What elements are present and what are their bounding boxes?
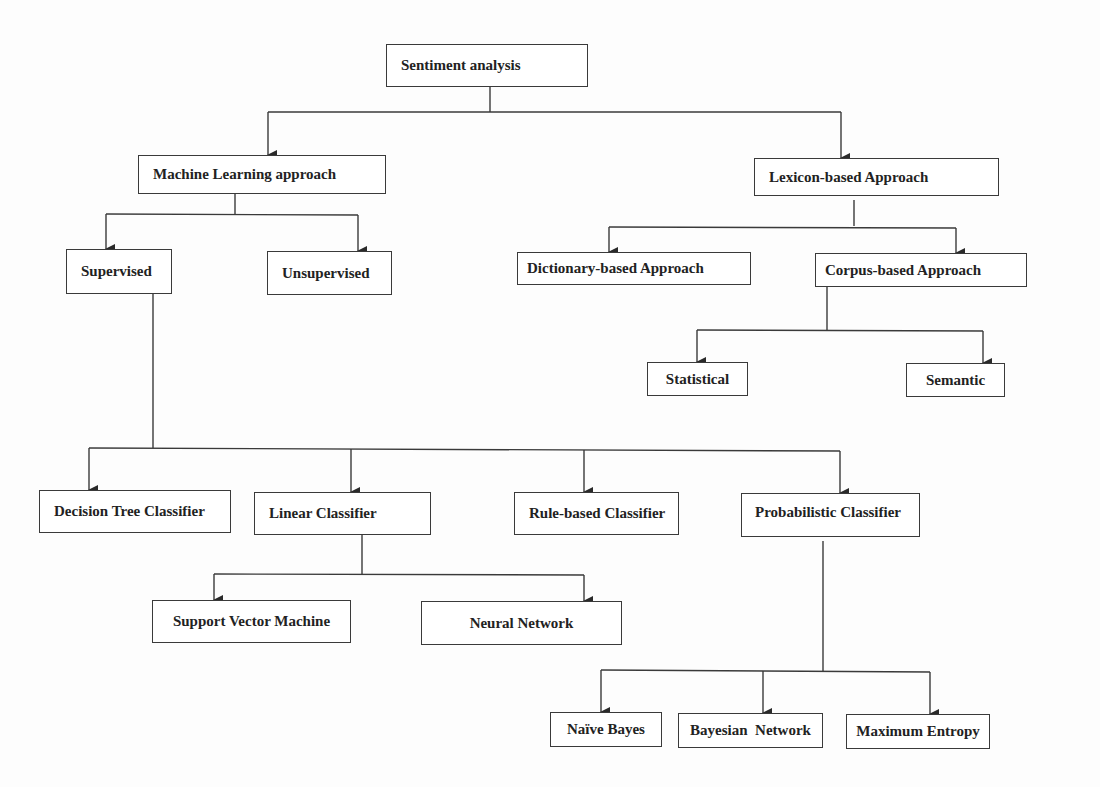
- node-machine-learning-approach: Machine Learning approach: [138, 155, 386, 194]
- node-maximum-entropy: Maximum Entropy: [846, 714, 990, 749]
- node-corpus-based-approach: Corpus-based Approach: [815, 253, 1027, 287]
- node-sentiment-analysis: Sentiment analysis: [386, 44, 588, 87]
- node-neural-network: Neural Network: [421, 601, 622, 645]
- node-probabilistic-classifier: Probabilistic Classifier: [741, 493, 920, 537]
- node-rule-based-classifier: Rule-based Classifier: [514, 492, 679, 535]
- node-unsupervised: Unsupervised: [267, 251, 392, 295]
- node-bayesian-network: Bayesian Network: [678, 713, 823, 748]
- node-support-vector-machine: Support Vector Machine: [152, 600, 351, 643]
- node-dictionary-based-approach: Dictionary-based Approach: [517, 252, 751, 285]
- node-semantic: Semantic: [906, 363, 1005, 397]
- diagram-canvas: Sentiment analysis Machine Learning appr…: [0, 0, 1100, 787]
- node-decision-tree-classifier: Decision Tree Classifier: [39, 490, 231, 533]
- node-linear-classifier: Linear Classifier: [254, 492, 431, 535]
- node-lexicon-based-approach: Lexicon-based Approach: [754, 158, 999, 196]
- node-supervised: Supervised: [66, 249, 172, 294]
- node-naive-bayes: Naïve Bayes: [550, 712, 662, 747]
- node-statistical: Statistical: [647, 362, 748, 396]
